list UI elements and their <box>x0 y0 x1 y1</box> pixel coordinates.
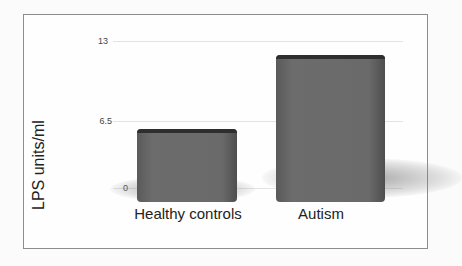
x-label-autism: Autism <box>276 205 366 222</box>
gridline-13 <box>113 41 403 42</box>
y-tick-6-5: 6.5 <box>82 116 112 126</box>
y-axis-label: LPS units/ml <box>30 120 48 210</box>
y-tick-13: 13 <box>78 36 108 46</box>
x-label-healthy-controls: Healthy controls <box>128 205 248 222</box>
bar-healthy-controls <box>137 129 237 202</box>
bar-autism <box>276 55 385 202</box>
